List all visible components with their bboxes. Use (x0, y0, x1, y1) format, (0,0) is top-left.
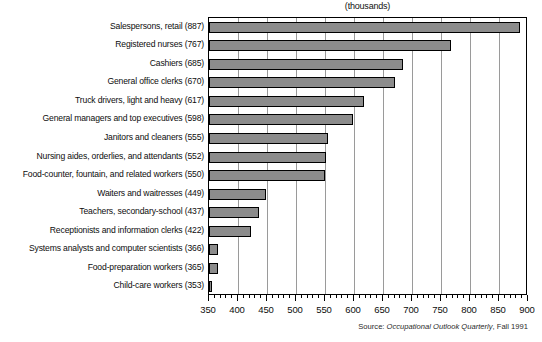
tick-minor (231, 295, 232, 298)
tick-minor (278, 295, 279, 298)
gridline (412, 18, 413, 294)
category-label: Salespersons, retail (887) (0, 21, 204, 32)
bar (209, 114, 353, 125)
bar (209, 77, 395, 88)
tick-major (295, 295, 296, 301)
tick-minor (359, 295, 360, 298)
gridline (499, 18, 500, 294)
bar (209, 207, 259, 218)
tick-minor (376, 295, 377, 298)
tick-minor (428, 295, 429, 298)
tick-minor (341, 295, 342, 298)
category-label: Cashiers (685) (0, 58, 204, 69)
bar (209, 281, 212, 292)
tick-minor (388, 295, 389, 298)
category-label: Child-care workers (353) (0, 280, 204, 291)
tick-major (527, 295, 528, 301)
category-label: Receptionists and information clerks (42… (0, 225, 204, 236)
tick-minor (272, 295, 273, 298)
tick-minor (301, 295, 302, 298)
tick-minor (515, 295, 516, 298)
tick-minor (521, 295, 522, 298)
tick-minor (457, 295, 458, 298)
tick-minor (434, 295, 435, 298)
chart-title: (thousands) (208, 1, 527, 11)
category-label: Food-counter, fountain, and related work… (0, 169, 204, 180)
tick-minor (446, 295, 447, 298)
tick-major (237, 295, 238, 301)
tick-minor (417, 295, 418, 298)
tick-major (353, 295, 354, 301)
tick-minor (225, 295, 226, 298)
category-label: Registered nurses (767) (0, 39, 204, 50)
bar (209, 59, 403, 70)
category-label-column: Salespersons, retail (887)Registered nur… (0, 17, 204, 295)
tick-minor (318, 295, 319, 298)
source-publication: Occupational Outlook Quarterly (387, 322, 493, 331)
tick-minor (330, 295, 331, 298)
x-axis-ticks (208, 295, 527, 302)
tick-minor (370, 295, 371, 298)
tick-minor (486, 295, 487, 298)
bar (209, 40, 451, 51)
category-label: Truck drivers, light and heavy (617) (0, 95, 204, 106)
tick-minor (452, 295, 453, 298)
bar (209, 133, 328, 144)
tick-minor (312, 295, 313, 298)
tick-minor (481, 295, 482, 298)
bar (209, 170, 325, 181)
tick-minor (347, 295, 348, 298)
bar (209, 22, 520, 33)
tick-major (498, 295, 499, 301)
category-label: Systems analysts and computer scientists… (0, 243, 204, 254)
tick-minor (394, 295, 395, 298)
tick-minor (283, 295, 284, 298)
bar (209, 96, 364, 107)
x-tick-label: 900 (507, 304, 542, 315)
tick-minor (365, 295, 366, 298)
category-label: Nursing aides, orderlies, and attendants… (0, 151, 204, 162)
tick-major (266, 295, 267, 301)
tick-minor (243, 295, 244, 298)
category-label: General office clerks (670) (0, 76, 204, 87)
tick-minor (289, 295, 290, 298)
tick-minor (260, 295, 261, 298)
bar (209, 226, 251, 237)
bar (209, 189, 266, 200)
bar (209, 263, 218, 274)
tick-minor (475, 295, 476, 298)
tick-major (411, 295, 412, 301)
tick-minor (254, 295, 255, 298)
category-label: Waiters and waitresses (449) (0, 188, 204, 199)
category-label: Janitors and cleaners (555) (0, 132, 204, 143)
tick-minor (399, 295, 400, 298)
tick-major (208, 295, 209, 301)
source-suffix: , Fall 1991 (493, 322, 528, 331)
bar-chart: (thousands) Salespersons, retail (887)Re… (0, 0, 542, 342)
bar (209, 244, 218, 255)
tick-major (469, 295, 470, 301)
tick-minor (423, 295, 424, 298)
tick-major (382, 295, 383, 301)
tick-minor (249, 295, 250, 298)
source-prefix: Source: (358, 322, 386, 331)
tick-minor (336, 295, 337, 298)
tick-minor (214, 295, 215, 298)
source-note: Source: Occupational Outlook Quarterly, … (358, 322, 528, 331)
tick-minor (492, 295, 493, 298)
tick-minor (405, 295, 406, 298)
tick-minor (307, 295, 308, 298)
tick-major (324, 295, 325, 301)
tick-minor (510, 295, 511, 298)
plot-area (208, 17, 527, 295)
tick-major (440, 295, 441, 301)
category-label: Teachers, secondary-school (437) (0, 206, 204, 217)
bar (209, 152, 326, 163)
category-label: General managers and top executives (598… (0, 113, 204, 124)
tick-minor (463, 295, 464, 298)
gridline (470, 18, 471, 294)
category-label: Food-preparation workers (365) (0, 262, 204, 273)
tick-minor (504, 295, 505, 298)
gridline (441, 18, 442, 294)
tick-minor (220, 295, 221, 298)
